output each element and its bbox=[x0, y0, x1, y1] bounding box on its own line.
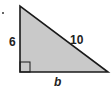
base-label: b bbox=[54, 76, 61, 88]
bullet-dot bbox=[2, 12, 4, 14]
right-triangle bbox=[20, 6, 108, 72]
left-leg-label: 6 bbox=[9, 36, 16, 48]
hypotenuse-label: 10 bbox=[70, 34, 83, 46]
